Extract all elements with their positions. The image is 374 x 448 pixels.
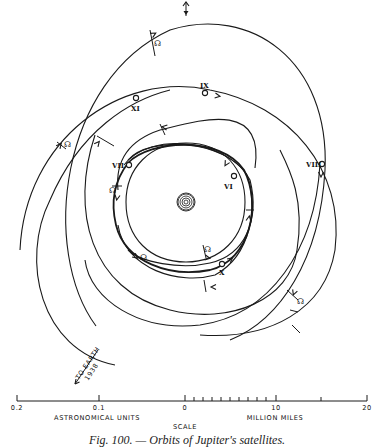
svg-text:10: 10 — [271, 404, 281, 412]
svg-text:IX: IX — [200, 81, 209, 90]
orbit-VIII — [85, 164, 320, 326]
satellite-XI: XI — [131, 95, 140, 113]
arrowhead-icon — [94, 140, 101, 147]
ascending-node-icon: ☊ — [140, 253, 147, 262]
svg-text:VII: VII — [111, 161, 124, 170]
orbits-group — [20, 24, 336, 365]
direction-arrows-group — [56, 31, 323, 296]
scale-title: SCALE — [173, 423, 197, 431]
orbit-left-big — [37, 90, 170, 365]
ascending-node-icon: ☊ — [204, 245, 211, 254]
svg-text:0.2: 0.2 — [11, 404, 23, 412]
scale-bar: 0.20.101020ASTRONOMICAL UNITSMILLION MIL… — [11, 395, 372, 431]
ascending-node-icon: ☊ — [297, 297, 304, 306]
arrowhead-icon — [211, 285, 216, 290]
north-arrow-icon — [183, 2, 189, 16]
arrowhead-icon — [114, 195, 120, 201]
satellite-X: X — [219, 261, 225, 277]
miles-label: MILLION MILES — [247, 414, 304, 422]
svg-text:VIII: VIII — [305, 160, 321, 169]
ascending-node-icon: ☊ — [64, 140, 71, 149]
figure-caption: Fig. 100. — Orbits of Jupiter's satellit… — [0, 433, 374, 448]
svg-text:X: X — [219, 268, 225, 277]
to-earth-pointer: TO EARTH1938 — [73, 345, 101, 384]
svg-text:0: 0 — [183, 404, 188, 412]
ascending-node-icon: ☊ — [109, 186, 116, 195]
svg-text:VI: VI — [223, 182, 233, 191]
svg-text:XI: XI — [131, 104, 140, 113]
satellite-IX: IX — [200, 81, 209, 96]
arrowhead-icon — [223, 160, 230, 167]
satellite-VII: VII — [111, 161, 132, 170]
svg-text:0.1: 0.1 — [93, 404, 105, 412]
orbit-IX — [20, 87, 336, 336]
satellite-VIII: VIII — [305, 160, 325, 169]
ascending-node-icon: ☊ — [154, 39, 161, 48]
satellite-VI: VI — [223, 173, 237, 191]
arrowhead-icon — [215, 93, 221, 99]
au-label: ASTRONOMICAL UNITS — [54, 414, 140, 422]
svg-text:20: 20 — [362, 404, 372, 412]
orbit-ticks-group — [57, 30, 300, 333]
orbit-outer-top — [66, 24, 326, 340]
jupiter-icon — [177, 193, 195, 211]
